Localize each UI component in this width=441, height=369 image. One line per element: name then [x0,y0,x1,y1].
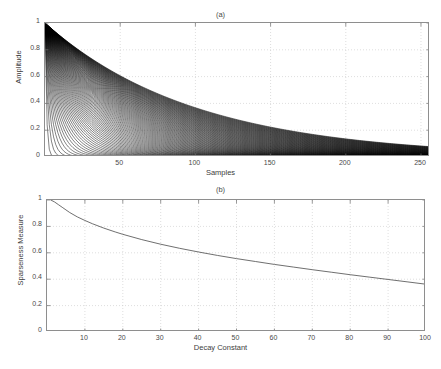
tick-label-x: 50 [216,334,256,341]
panel-b-ylabel: Sparseness Measure [16,180,25,320]
panel-a: (a) 50100150200250 00.20.40.60.81 Sample… [0,0,441,180]
panel-a-ylabel: Amplitude [14,12,23,122]
tick-label-x: 50 [99,159,139,166]
tick-label-x: 80 [329,334,369,341]
tick-label-x: 150 [250,159,290,166]
panel-b-plot-area [46,199,425,331]
tick-label-y: 0 [12,151,40,158]
tick-label-x: 100 [405,334,441,341]
tick-label-x: 100 [174,159,214,166]
panel-a-title: (a) [0,10,441,19]
tick-label-x: 200 [325,159,365,166]
tick-label-y: 0 [14,326,42,333]
panel-b: (b) 102030405060708090100 00.20.40.60.81… [0,180,441,369]
panel-a-plot-area [44,22,429,156]
panel-b-xlabel: Decay Constant [0,343,441,352]
tick-label-x: 40 [178,334,218,341]
figure-page: (a) 50100150200250 00.20.40.60.81 Sample… [0,0,441,369]
tick-label-x: 30 [140,334,180,341]
panel-a-xlabel: Samples [0,168,441,177]
tick-label-x: 60 [253,334,293,341]
tick-label-x: 250 [400,159,440,166]
tick-label-x: 20 [102,334,142,341]
tick-label-x: 90 [367,334,407,341]
tick-label-y: 0.2 [12,124,40,131]
tick-label-x: 10 [64,334,104,341]
panel-b-title: (b) [0,185,441,194]
tick-label-x: 70 [291,334,331,341]
